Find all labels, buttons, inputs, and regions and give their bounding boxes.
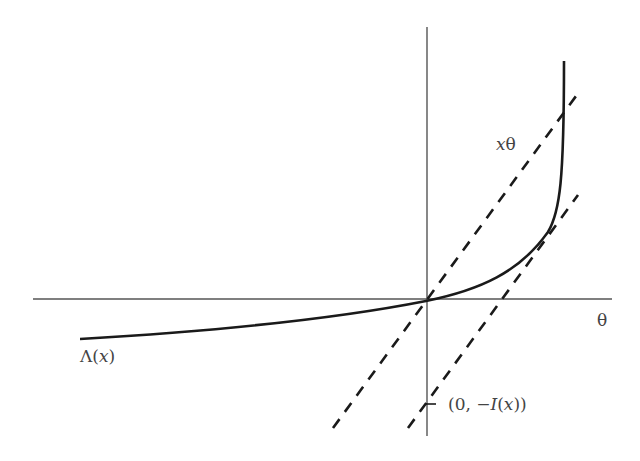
- theta-axis-label: θ: [597, 310, 607, 330]
- dashed-line-x-theta: [333, 92, 579, 428]
- intercept-label: (0, −I(x)): [448, 394, 527, 414]
- legendre-transform-diagram: θ Λ(x) xθ (0, −I(x)): [0, 0, 640, 461]
- lambda-curve: [80, 61, 564, 339]
- lambda-label: Λ(x): [79, 346, 115, 366]
- x-theta-label: xθ: [496, 134, 516, 154]
